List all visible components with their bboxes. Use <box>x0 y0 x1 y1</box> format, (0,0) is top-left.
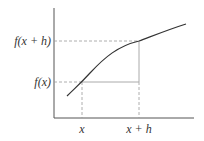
label-f-x-plus-h: f(x + h) <box>14 34 51 48</box>
difference-quotient-diagram: f(x + h) f(x) x x + h <box>0 0 204 141</box>
function-curve <box>67 24 186 96</box>
label-x: x <box>78 122 85 136</box>
label-f-x: f(x) <box>34 75 51 89</box>
label-x-plus-h: x + h <box>125 122 151 136</box>
